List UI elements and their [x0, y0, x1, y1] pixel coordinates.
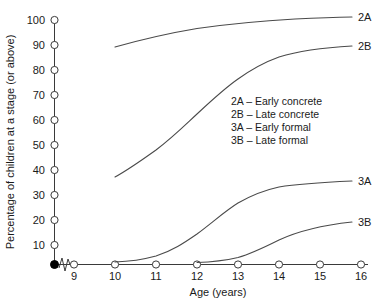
legend-entry-2A: 2A – Early concrete — [231, 95, 322, 107]
x-tick-label-10: 10 — [109, 270, 121, 282]
y-tick-marker-80 — [51, 66, 58, 73]
x-tick-label-12: 12 — [191, 270, 203, 282]
legend-entry-2B: 2B – Late concrete — [231, 108, 319, 120]
series-end-label-2B: 2B — [358, 40, 371, 52]
y-tick-label-100: 100 — [27, 14, 45, 26]
x-tick-label-15: 15 — [314, 270, 326, 282]
series-end-label-2A: 2A — [358, 11, 372, 23]
series-end-label-3B: 3B — [358, 216, 371, 228]
y-axis-tick-labels: 100 90 80 70 60 50 40 30 20 10 — [27, 14, 45, 251]
y-tick-marker-90 — [51, 41, 58, 48]
x-axis-tick-labels: 9 10 11 12 13 14 15 16 — [71, 270, 367, 282]
x-tick-label-13: 13 — [232, 270, 244, 282]
x-tick-marker-15 — [316, 261, 323, 268]
y-axis-title: Percentage of children at a stage (or ab… — [4, 35, 16, 250]
x-tick-marker-11 — [152, 261, 159, 268]
y-tick-marker-50 — [51, 141, 58, 148]
series-end-label-3A: 3A — [358, 175, 372, 187]
y-tick-label-40: 40 — [33, 164, 45, 176]
y-tick-marker-20 — [51, 216, 58, 223]
x-tick-marker-9 — [70, 261, 77, 268]
x-tick-label-11: 11 — [150, 270, 161, 282]
x-tick-label-9: 9 — [71, 270, 77, 282]
y-tick-marker-10 — [51, 241, 58, 248]
y-tick-marker-40 — [51, 166, 58, 173]
y-tick-label-20: 20 — [33, 214, 45, 226]
origin-dot — [51, 261, 59, 269]
legend-entry-3B: 3B – Late formal — [231, 134, 308, 146]
legend: 2A – Early concrete 2B – Late concrete 3… — [231, 95, 322, 146]
y-tick-label-70: 70 — [33, 89, 45, 101]
y-tick-label-50: 50 — [33, 139, 45, 151]
x-tick-marker-13 — [234, 261, 241, 268]
chart-canvas: 100 90 80 70 60 50 40 30 20 10 9 — [0, 0, 376, 302]
y-tick-marker-60 — [51, 116, 58, 123]
series-line-3A — [115, 181, 352, 262]
y-tick-marker-30 — [51, 191, 58, 198]
y-tick-label-30: 30 — [33, 189, 45, 201]
x-tick-marker-14 — [275, 261, 282, 268]
legend-entry-3A: 3A – Early formal — [231, 121, 311, 133]
series-line-2A — [115, 17, 352, 47]
y-tick-label-90: 90 — [33, 39, 45, 51]
y-tick-label-10: 10 — [33, 239, 45, 251]
line-chart: 100 90 80 70 60 50 40 30 20 10 9 — [0, 0, 376, 302]
x-tick-label-16: 16 — [355, 270, 367, 282]
series-line-3B — [197, 222, 352, 263]
y-tick-label-60: 60 — [33, 114, 45, 126]
x-tick-marker-16 — [357, 261, 364, 268]
y-tick-label-80: 80 — [33, 64, 45, 76]
y-tick-marker-70 — [51, 91, 58, 98]
y-tick-marker-100 — [51, 16, 58, 23]
x-axis-title: Age (years) — [190, 286, 247, 298]
x-tick-label-14: 14 — [273, 270, 285, 282]
